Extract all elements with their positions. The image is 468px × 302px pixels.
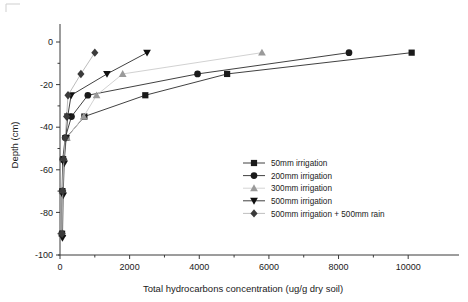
series-point (85, 92, 92, 99)
legend-label: 300mm irrigation (271, 184, 332, 193)
legend-label: 50mm irrigation (271, 159, 328, 168)
series-point (346, 49, 353, 56)
y-axis-label: Depth (cm) (9, 122, 20, 169)
y-tick-label: 0 (48, 37, 53, 47)
series-point (409, 50, 415, 56)
circle-marker-icon (194, 71, 201, 78)
y-tick-label: -60 (40, 165, 53, 175)
circle-marker-icon (346, 49, 353, 56)
x-tick-label: 10000 (396, 262, 421, 272)
legend-marker (251, 160, 257, 166)
y-tick-label: -20 (40, 80, 53, 90)
legend-marker (251, 172, 258, 179)
square-marker-icon (251, 160, 257, 166)
y-tick-label: -40 (40, 122, 53, 132)
y-tick-label: -80 (40, 208, 53, 218)
series-point (224, 71, 230, 77)
y-tick-label: -100 (35, 250, 53, 260)
square-marker-icon (224, 71, 230, 77)
legend-label: 500mm irrigation + 500mm rain (271, 210, 385, 219)
circle-marker-icon (85, 92, 92, 99)
x-tick-label: 0 (57, 262, 62, 272)
x-tick-label: 4000 (189, 262, 209, 272)
legend-label: 200mm irrigation (271, 172, 332, 181)
series-point (142, 92, 148, 98)
chart-figure: 0200040006000800010000 0-20-40-60-80-100… (0, 0, 468, 302)
square-marker-icon (409, 50, 415, 56)
legend-label: 500mm irrigation (271, 197, 332, 206)
x-tick-label: 2000 (120, 262, 140, 272)
series-point (194, 71, 201, 78)
x-tick-label: 6000 (259, 262, 279, 272)
circle-marker-icon (251, 172, 258, 179)
square-marker-icon (142, 92, 148, 98)
x-axis-label: Total hydrocarbons concentration (ug/g d… (143, 283, 343, 294)
x-tick-label: 8000 (329, 262, 349, 272)
